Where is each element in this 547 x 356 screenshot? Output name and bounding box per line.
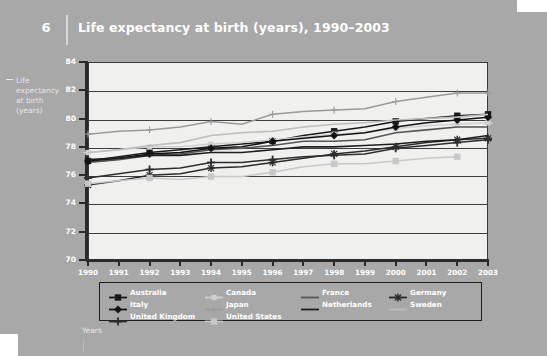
data-point — [330, 151, 338, 159]
header-divider — [66, 15, 68, 45]
y-axis-tick — [79, 231, 88, 233]
legend-label: Japan — [226, 300, 249, 309]
legend-marker-icon — [108, 288, 128, 299]
y-axis-tick-label: 70 — [54, 255, 76, 264]
chart-legend[interactable]: AustraliaCanadaFranceGermanyItalyJapanNe… — [99, 282, 482, 321]
x-axis-tick — [302, 259, 304, 266]
data-point — [85, 180, 91, 186]
x-axis-tick — [425, 259, 427, 266]
legend-marker-icon — [300, 288, 320, 299]
data-point — [331, 107, 338, 114]
x-axis-tick — [333, 259, 335, 266]
x-axis-tick — [487, 259, 489, 266]
y-axis-tick-label: 84 — [54, 57, 76, 66]
legend-marker-icon — [388, 300, 408, 311]
data-point — [146, 126, 153, 133]
x-axis-tick — [395, 259, 397, 266]
figure-number: 6 — [32, 20, 60, 35]
y-axis-tick-label: 76 — [54, 170, 76, 179]
y-axis-tick — [79, 89, 88, 91]
legend-label: France — [322, 288, 349, 297]
legend-marker-icon — [388, 288, 408, 299]
legend-marker-icon — [204, 288, 224, 299]
y-axis-tick-label: 78 — [54, 142, 76, 151]
series-line — [88, 93, 488, 134]
data-point — [146, 175, 152, 181]
x-axis-tick — [149, 259, 151, 266]
data-point — [269, 169, 275, 175]
legend-label: Canada — [226, 288, 256, 297]
y-axis-tick-label: 80 — [54, 114, 76, 123]
y-axis-tick-label: 82 — [54, 85, 76, 94]
legend-label: Netherlands — [322, 300, 372, 309]
legend-label: United States — [226, 312, 281, 321]
x-axis-tick — [210, 259, 212, 266]
legend-label: Australia — [130, 288, 167, 297]
y-axis-title: Life expectancy at birth (years) — [16, 76, 68, 116]
data-point — [269, 111, 276, 118]
figure-page: 6 Life expectancy at birth (years), 1990… — [0, 0, 547, 356]
data-point — [392, 144, 400, 152]
y-axis-tick — [79, 174, 88, 176]
data-point — [454, 90, 461, 97]
legend-marker-icon — [204, 312, 224, 323]
y-axis-tick — [79, 61, 88, 63]
page-title: Life expectancy at birth (years), 1990–2… — [78, 20, 390, 35]
legend-label: Germany — [410, 288, 446, 297]
legend-label: United Kingdom — [130, 312, 195, 321]
page-corner-notch-top-right — [517, 0, 547, 12]
y-axis-tick — [79, 118, 88, 120]
legend-label: Sweden — [410, 300, 442, 309]
x-axis-tick — [87, 259, 89, 266]
data-point — [454, 154, 460, 160]
legend-marker-icon — [108, 312, 128, 323]
page-corner-notch-bottom-left — [0, 334, 18, 356]
data-point — [392, 158, 398, 164]
y-axis-tick-label: 74 — [54, 198, 76, 207]
x-axis-tick — [241, 259, 243, 266]
series-canada — [83, 120, 492, 155]
data-point — [208, 118, 215, 125]
x-axis-tick — [456, 259, 458, 266]
y-axis-title-label: Life expectancy at birth (years) — [16, 76, 59, 115]
data-point — [331, 161, 337, 167]
figure-header: 6 Life expectancy at birth (years), 1990… — [18, 12, 547, 50]
x-axis-tick — [272, 259, 274, 266]
legend-marker-icon — [108, 300, 128, 311]
y-axis-tick-label: 72 — [54, 227, 76, 236]
x-axis-tick-label: 2003 — [468, 268, 508, 277]
legend-label: Italy — [130, 300, 148, 309]
legend-marker-icon — [300, 300, 320, 311]
x-axis-title-leader — [83, 340, 84, 352]
data-point — [392, 98, 399, 105]
legend-marker-icon — [204, 300, 224, 311]
y-axis-title-dash-icon — [6, 79, 13, 80]
data-point — [208, 173, 214, 179]
series-japan — [85, 90, 492, 138]
data-series-layer — [88, 62, 488, 260]
y-axis-tick — [79, 146, 88, 148]
x-axis-tick — [118, 259, 120, 266]
x-axis-tick — [179, 259, 181, 266]
x-axis-title: Years — [82, 326, 102, 335]
x-axis-tick — [364, 259, 366, 266]
y-axis-tick — [79, 202, 88, 204]
